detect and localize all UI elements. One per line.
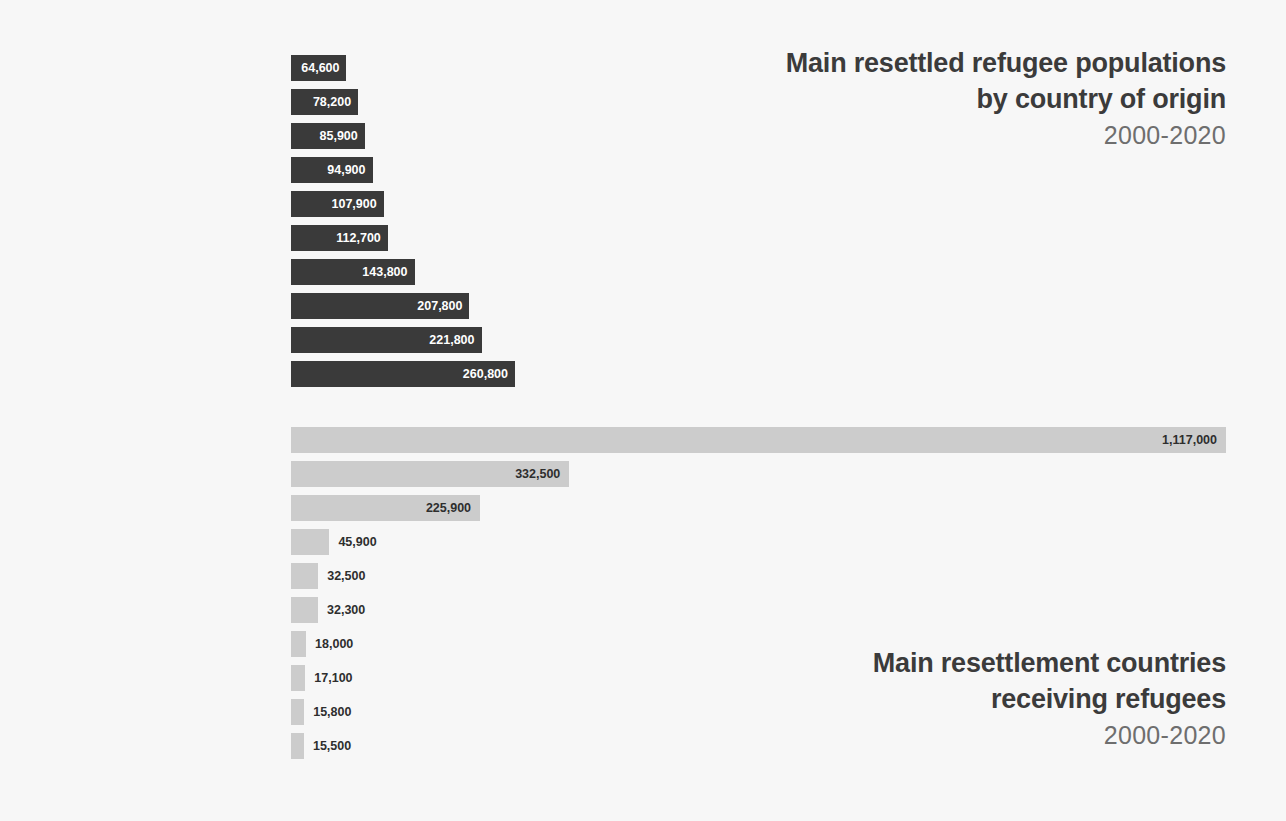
bar-track: 15,500 xyxy=(291,733,304,759)
bar-track: 64,600 xyxy=(291,55,346,81)
bar-value-label: 94,900 xyxy=(327,157,365,183)
destination-chart-title-line-1: Main resettlement countries xyxy=(873,645,1226,681)
infographic-canvas: Eritrea64,600Sudan78,200Iran (Islamic Re… xyxy=(0,0,1286,821)
bar: 85,900 xyxy=(291,123,365,149)
bar-value-label: 17,100 xyxy=(314,665,352,691)
bar: 15,800 xyxy=(291,699,304,725)
bar: 225,900 xyxy=(291,495,480,521)
bar: 260,800 xyxy=(291,361,515,387)
bar-track: 225,900 xyxy=(291,495,480,521)
bar: 94,900 xyxy=(291,157,373,183)
bar: 107,900 xyxy=(291,191,384,217)
bar-track: 332,500 xyxy=(291,461,569,487)
bar-track: 1,117,000 xyxy=(291,427,1226,453)
bar: 32,500 xyxy=(291,563,318,589)
bar-value-label: 64,600 xyxy=(301,55,339,81)
bar-value-label: 45,900 xyxy=(338,529,376,555)
bar-track: 32,300 xyxy=(291,597,318,623)
bar: 143,800 xyxy=(291,259,415,285)
bar-track: 94,900 xyxy=(291,157,373,183)
bar-value-label: 15,500 xyxy=(313,733,351,759)
bar-track: 112,700 xyxy=(291,225,388,251)
bar: 45,900 xyxy=(291,529,329,555)
bar-value-label: 78,200 xyxy=(313,89,351,115)
bar-value-label: 32,500 xyxy=(327,563,365,589)
origin-chart-title-line-2: by country of origin xyxy=(786,81,1226,117)
bar-track: 32,500 xyxy=(291,563,318,589)
bar: 17,100 xyxy=(291,665,305,691)
bar-value-label: 32,300 xyxy=(327,597,365,623)
bar-track: 17,100 xyxy=(291,665,305,691)
bar-track: 85,900 xyxy=(291,123,365,149)
bar-track: 78,200 xyxy=(291,89,358,115)
bar-value-label: 143,800 xyxy=(362,259,407,285)
bar-track: 207,800 xyxy=(291,293,469,319)
bar: 32,300 xyxy=(291,597,318,623)
bar-value-label: 221,800 xyxy=(429,327,474,353)
bar-value-label: 207,800 xyxy=(417,293,462,319)
bar-value-label: 15,800 xyxy=(313,699,351,725)
bar: 18,000 xyxy=(291,631,306,657)
destination-chart-title-block: Main resettlement countries receiving re… xyxy=(873,645,1226,753)
bar-value-label: 225,900 xyxy=(426,495,471,521)
bar-value-label: 107,900 xyxy=(331,191,376,217)
bar-value-label: 1,117,000 xyxy=(1162,427,1217,453)
bar-track: 260,800 xyxy=(291,361,515,387)
bar-value-label: 332,500 xyxy=(515,461,560,487)
origin-chart-title-line-1: Main resettled refugee populations xyxy=(786,45,1226,81)
bar-value-label: 260,800 xyxy=(463,361,508,387)
bar: 64,600 xyxy=(291,55,346,81)
bar-value-label: 18,000 xyxy=(315,631,353,657)
bar-track: 45,900 xyxy=(291,529,329,555)
bar-track: 15,800 xyxy=(291,699,304,725)
bar: 332,500 xyxy=(291,461,569,487)
origin-chart-period: 2000-2020 xyxy=(786,117,1226,153)
bar-value-label: 112,700 xyxy=(336,225,381,251)
bar: 207,800 xyxy=(291,293,469,319)
bar-track: 107,900 xyxy=(291,191,384,217)
bar: 1,117,000 xyxy=(291,427,1226,453)
bar-track: 143,800 xyxy=(291,259,415,285)
bar: 15,500 xyxy=(291,733,304,759)
destination-chart-period: 2000-2020 xyxy=(873,717,1226,753)
destination-chart-title-line-2: receiving refugees xyxy=(873,681,1226,717)
bar: 221,800 xyxy=(291,327,482,353)
bar: 78,200 xyxy=(291,89,358,115)
bar-track: 18,000 xyxy=(291,631,306,657)
bar: 112,700 xyxy=(291,225,388,251)
bar-value-label: 85,900 xyxy=(320,123,358,149)
bar-track: 221,800 xyxy=(291,327,482,353)
origin-chart-title-block: Main resettled refugee populations by co… xyxy=(786,45,1226,153)
